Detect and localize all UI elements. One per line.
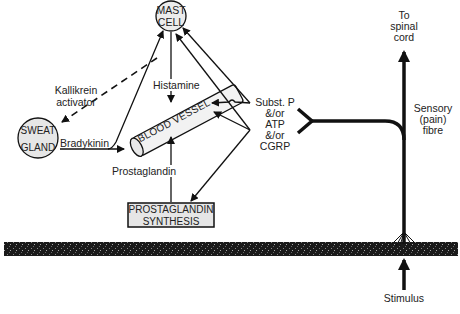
cgrp: CGRP [252,141,298,152]
stimulus-label: Stimulus [380,292,428,304]
prostaglandin-synthesis-label: PROSTAGLANDIN SYNTHESIS [128,204,214,228]
prostaglandin-label: Prostaglandin [112,165,176,177]
kallikrein-label: Kallikrein activator [46,84,106,108]
subst-to-mast-edge-1 [183,28,250,103]
bradykinin-label: Bradykinin [60,137,109,149]
sweat-gland-line2: GLAND [18,142,58,154]
ps-line2: SYNTHESIS [128,216,214,228]
mast-cell-label: MAST CELL [156,4,186,28]
substances-label: Subst. P &/or ATP &/or CGRP [252,97,298,152]
kallikrein-line1: Kallikrein [46,84,106,96]
sensory-fibre-branch [312,121,404,140]
histamine-label: Histamine [153,79,200,91]
fibre-text: fibre [408,125,458,136]
sweat-gland-label: SWEAT GLAND [18,125,58,154]
kallikrein-line2: activator [46,96,106,108]
skin-layer [4,242,458,256]
diagram-canvas [0,0,460,314]
subst-to-prostaglandin-edge [191,130,250,201]
nerve-ending-fork [298,109,312,133]
cord-text: cord [388,32,420,43]
mast-cell-line1: MAST [156,4,186,16]
sweat-gland-line1: SWEAT [18,125,58,137]
subst-to-vessel-edge-2 [214,112,250,130]
mast-cell-line2: CELL [156,16,186,28]
ps-line1: PROSTAGLANDIN [128,204,214,216]
sensory-fibre-label: Sensory (pain) fibre [408,103,458,136]
to-spinal-cord-label: To spinal cord [388,10,420,43]
